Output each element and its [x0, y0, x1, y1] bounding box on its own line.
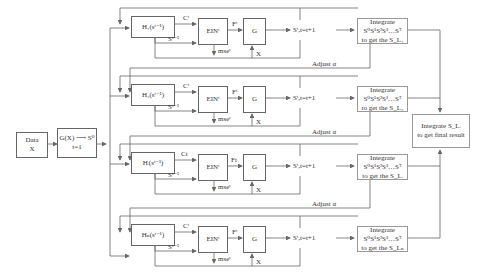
st-label-3: Sᵗ,t=t+1: [293, 162, 315, 170]
final-integrate-box: Integrate S_Lᵢ to get final result: [412, 114, 470, 148]
s-prev-label-3: Sᵗ⁻¹: [168, 171, 179, 179]
integrate-1-line1: Integrate S⁰S¹S²S³…Sᵀ: [358, 18, 407, 36]
init-t-label: t=1: [72, 143, 81, 152]
ein-box-2: EINᵗ: [198, 86, 228, 113]
mse-label-1: mseᵗ: [218, 47, 231, 55]
ein-label-3: EINᵗ: [206, 163, 219, 172]
integrate-box-1: Integrate S⁰S¹S²S³…Sᵀ to get the S_L₁: [357, 18, 408, 44]
adjust-alpha-label-1: Adjust α: [312, 60, 336, 68]
integrate-4-line1: Integrate S⁰S¹S²S³…Sᵀ: [358, 226, 407, 244]
ein-box-3: EINᵗ: [198, 154, 228, 181]
x-label-3: X: [256, 186, 261, 194]
integrate-2-line2: to get the S_L₂: [362, 104, 404, 113]
s-prev-label-1: Sᵗ⁻¹: [168, 35, 179, 43]
integrate-4-line2: to get the S_Lₙ: [361, 244, 404, 253]
ein-box-4: EINᵗ: [198, 226, 228, 253]
integrate-box-4: Integrate S⁰S¹S²S³…Sᵀ to get the S_Lₙ: [357, 226, 408, 252]
data-input-box: Data X: [16, 132, 48, 158]
adjust-alpha-label-2: Adjust α: [312, 128, 336, 136]
c-label-1: Cᵗ: [183, 14, 189, 22]
ein-box-1: EINᵗ: [198, 18, 228, 45]
st-label-1: Sᵗ,t=t+1: [293, 26, 315, 34]
s-prev-label-2: Sᵗ⁻¹: [168, 103, 179, 111]
final-line2: to get final result: [417, 131, 465, 140]
f-label-1: Fᵗ: [232, 20, 237, 28]
g-label-4: G: [252, 235, 257, 244]
init-generator-label: G(X) ⟶ S⁰: [59, 134, 94, 143]
integrate-3-line2: to get the S_Lᵢ: [362, 172, 403, 181]
f-label-4: Fᵗ: [232, 228, 237, 236]
h2-label: H₂(sᵗ⁻¹): [142, 91, 164, 100]
c-label-3: Ct: [181, 150, 188, 158]
g-box-2: G: [243, 86, 266, 113]
c-label-2: Cᵗ: [183, 82, 189, 90]
ein-label-2: EINᵗ: [206, 95, 219, 104]
hi-label: Hᵢ(sᵗ⁻¹): [143, 159, 164, 168]
g-label-2: G: [252, 95, 257, 104]
g-label-1: G: [252, 27, 257, 36]
integrate-3-line1: Integrate S⁰S¹S²S³…Sᵀ: [358, 154, 407, 172]
ein-label-4: EINᵗ: [206, 235, 219, 244]
final-line1: Integrate S_Lᵢ: [421, 122, 460, 131]
h1-label: H₁(sᵗ⁻¹): [142, 23, 164, 32]
init-generator-box: G(X) ⟶ S⁰ t=1: [57, 128, 97, 158]
hn-label: Hₙ(sᵗ⁻¹): [142, 231, 165, 240]
integrate-box-2: Integrate S⁰S¹S²S³…Sᵀ to get the S_L₂: [357, 86, 408, 112]
g-box-3: G: [243, 154, 266, 181]
data-label: Data: [25, 136, 38, 145]
st-label-4: Sᵗ,t=t+1: [293, 234, 315, 242]
x-label-1: X: [256, 50, 261, 58]
ein-label-1: EINᵗ: [206, 27, 219, 36]
mse-label-2: mseᵗ: [218, 115, 231, 123]
f-label-3: Ft: [231, 156, 237, 164]
st-label-2: Sᵗ,t=t+1: [293, 94, 315, 102]
integrate-box-3: Integrate S⁰S¹S²S³…Sᵀ to get the S_Lᵢ: [357, 154, 408, 180]
x-label-2: X: [256, 118, 261, 126]
data-x-label: X: [29, 145, 34, 154]
g-box-1: G: [243, 18, 266, 45]
mse-label-3: mseᵗ: [218, 183, 231, 191]
adjust-alpha-label-3: Adjust α: [312, 200, 336, 208]
s-prev-label-4: Sᵗ⁻¹: [168, 243, 179, 251]
c-label-4: Cᵗ: [183, 222, 189, 230]
integrate-2-line1: Integrate S⁰S¹S²S³…Sᵀ: [358, 86, 407, 104]
f-label-2: Fᵗ: [232, 88, 237, 96]
g-box-4: G: [243, 226, 266, 253]
g-label-3: G: [252, 163, 257, 172]
integrate-1-line2: to get the S_L₁: [362, 36, 404, 45]
x-label-4: X: [256, 258, 261, 266]
mse-label-4: mseᵗ: [218, 255, 231, 263]
